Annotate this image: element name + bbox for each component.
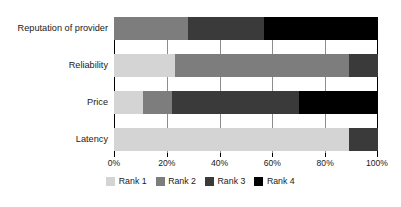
category-label-reliability: Reliability: [0, 54, 108, 77]
bar-segment-rank-2: [175, 54, 349, 77]
legend-label: Rank 4: [267, 176, 295, 186]
x-tick-label-40: 40%: [211, 158, 228, 168]
bar-segment-rank-3: [172, 91, 299, 114]
bar-segment-rank-3: [188, 17, 265, 40]
x-tick-mark-40: [220, 153, 221, 157]
x-tick-mark-0: [114, 153, 115, 157]
x-axis: 0% 20% 40% 60% 80% 100%: [114, 153, 378, 171]
category-label-reputation-of-provider: Reputation of provider: [0, 17, 108, 40]
bar-segment-rank-3: [349, 128, 378, 151]
legend-item-rank-3: Rank 3: [205, 176, 245, 186]
legend-label: Rank 3: [218, 176, 246, 186]
x-tick-label-20: 20%: [158, 158, 175, 168]
plot-area: [114, 17, 378, 153]
bar-row-reliability: [114, 54, 378, 77]
bar-segment-rank-4: [299, 91, 378, 114]
category-label-latency: Latency: [0, 128, 108, 151]
bar-segment-rank-1: [114, 128, 349, 151]
chart-legend: Rank 1 Rank 2 Rank 3 Rank 4: [0, 176, 401, 186]
x-tick-mark-80: [325, 153, 326, 157]
category-label-price: Price: [0, 91, 108, 114]
legend-swatch-icon: [106, 177, 115, 186]
bar-row-latency: [114, 128, 378, 151]
bar-segment-rank-1: [114, 54, 175, 77]
legend-swatch-icon: [205, 177, 214, 186]
bar-segment-rank-1: [114, 91, 143, 114]
legend-item-rank-2: Rank 2: [156, 176, 196, 186]
legend-item-rank-4: Rank 4: [254, 176, 294, 186]
x-tick-mark-60: [272, 153, 273, 157]
x-tick-mark-100: [377, 153, 378, 157]
x-tick-label-100: 100%: [366, 158, 388, 168]
bar-row-reputation-of-provider: [114, 17, 378, 40]
legend-swatch-icon: [156, 177, 165, 186]
bar-segment-rank-2: [114, 17, 188, 40]
bar-row-price: [114, 91, 378, 114]
bar-segment-rank-4: [264, 17, 378, 40]
bar-segment-rank-3: [349, 54, 378, 77]
legend-swatch-icon: [254, 177, 263, 186]
x-tick-label-0: 0%: [108, 158, 120, 168]
x-tick-label-80: 80%: [317, 158, 334, 168]
bar-segment-rank-2: [143, 91, 172, 114]
legend-label: Rank 1: [119, 176, 147, 186]
legend-label: Rank 2: [168, 176, 196, 186]
x-tick-mark-20: [167, 153, 168, 157]
legend-item-rank-1: Rank 1: [106, 176, 146, 186]
x-tick-label-60: 60%: [264, 158, 281, 168]
stacked-bar-chart: Reputation of provider Reliability Price…: [0, 0, 401, 207]
